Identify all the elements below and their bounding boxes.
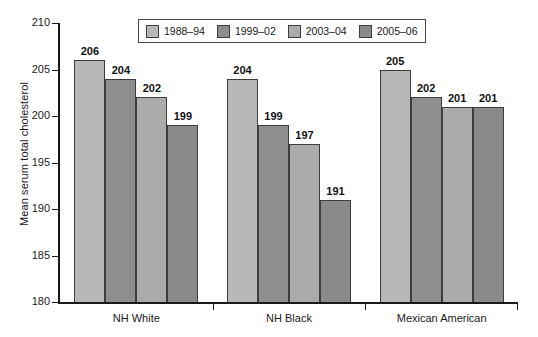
bar-value-label: 197 <box>283 130 326 141</box>
y-axis-tick: 205 <box>0 70 59 71</box>
x-axis-end-tick <box>517 303 518 310</box>
y-axis-tick: 210 <box>0 23 59 24</box>
bar-value-label: 205 <box>374 56 417 67</box>
y-axis-tick-mark <box>52 116 59 117</box>
y-axis-tick: 200 <box>0 116 59 117</box>
y-axis-tick-label: 210 <box>22 17 50 28</box>
bar <box>380 70 411 304</box>
bar <box>442 107 473 303</box>
legend-item-label: 2005–06 <box>377 26 418 37</box>
bar <box>105 79 136 303</box>
bar <box>289 144 320 303</box>
bar <box>167 125 198 303</box>
bar-value-label: 204 <box>221 65 264 76</box>
y-axis-tick-label: 180 <box>22 296 50 307</box>
bar-value-label: 201 <box>467 93 510 104</box>
bar <box>74 60 105 303</box>
legend-item-label: 2003–04 <box>306 26 347 37</box>
legend-swatch-icon <box>217 25 230 38</box>
legend-item-label: 1999–02 <box>235 26 276 37</box>
chart-legend: 1988–941999–022003–042005–06 <box>138 19 426 43</box>
y-axis-tick-label: 200 <box>22 110 50 121</box>
bar-value-label: 202 <box>130 83 173 94</box>
y-axis-tick-label: 185 <box>22 250 50 261</box>
bar <box>136 97 167 303</box>
x-axis-line <box>58 302 518 304</box>
x-axis-group-label: NH Black <box>213 312 366 324</box>
legend-item: 2005–06 <box>359 25 418 38</box>
y-axis-tick-mark <box>52 256 59 257</box>
legend-swatch-icon <box>146 25 159 38</box>
y-axis-tick: 195 <box>0 163 59 164</box>
bar-value-label: 199 <box>161 111 204 122</box>
y-axis-tick: 190 <box>0 209 59 210</box>
y-axis-tick-label: 205 <box>22 64 50 75</box>
x-axis-separator-tick <box>365 303 366 310</box>
x-axis-group-label: NH White <box>60 312 213 324</box>
bar-chart: Mean serum total cholesterol 18018519019… <box>0 0 538 337</box>
y-axis-tick: 180 <box>0 302 59 303</box>
x-axis-separator-tick <box>213 303 214 310</box>
legend-swatch-icon <box>359 25 372 38</box>
bar-value-label: 191 <box>314 186 357 197</box>
bar-value-label: 199 <box>252 111 295 122</box>
bar <box>320 200 351 303</box>
bar <box>258 125 289 303</box>
bar <box>411 97 442 303</box>
bar <box>473 107 504 303</box>
y-axis-tick-label: 190 <box>22 203 50 214</box>
legend-swatch-icon <box>288 25 301 38</box>
legend-item: 2003–04 <box>288 25 347 38</box>
y-axis-tick: 185 <box>0 256 59 257</box>
bar-value-label: 206 <box>68 46 111 57</box>
x-axis-group-label: Mexican American <box>365 312 518 324</box>
legend-item: 1988–94 <box>146 25 205 38</box>
y-axis-tick-mark <box>52 163 59 164</box>
legend-item-label: 1988–94 <box>164 26 205 37</box>
y-axis-tick-mark <box>52 70 59 71</box>
y-axis-tick-label: 195 <box>22 157 50 168</box>
legend-item: 1999–02 <box>217 25 276 38</box>
y-axis-tick-mark <box>52 23 59 24</box>
bar-value-label: 204 <box>99 65 142 76</box>
y-axis-tick-mark <box>52 209 59 210</box>
